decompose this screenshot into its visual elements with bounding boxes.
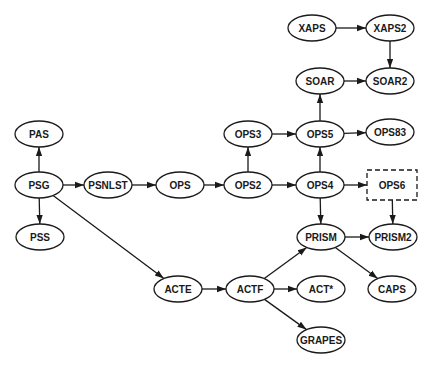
node-actf: ACTF bbox=[226, 276, 274, 302]
node-label: PRISM2 bbox=[374, 232, 412, 243]
node-xaps: XAPS bbox=[288, 15, 336, 41]
node-ops5: OPS5 bbox=[296, 121, 344, 147]
node-label: SOAR bbox=[306, 76, 336, 87]
node-label: OPS2 bbox=[235, 180, 262, 191]
node-label: PSG bbox=[28, 180, 49, 191]
node-label: OPS bbox=[169, 180, 190, 191]
node-label: CAPS bbox=[378, 284, 406, 295]
node-label: PSS bbox=[30, 232, 50, 243]
node-ops: OPS bbox=[156, 172, 204, 198]
node-xaps2: XAPS2 bbox=[366, 15, 414, 41]
node-label: OPS6 bbox=[379, 180, 406, 191]
node-pas: PAS bbox=[15, 121, 63, 147]
node-prism2: PRISM2 bbox=[369, 224, 417, 250]
edge-ops6-to-prism2 bbox=[392, 200, 393, 224]
node-soar2: SOAR2 bbox=[366, 68, 414, 94]
node-ops2: OPS2 bbox=[224, 172, 272, 198]
edge-ops4-to-prism bbox=[320, 198, 321, 224]
node-label: PAS bbox=[29, 129, 49, 140]
node-ops83: OPS83 bbox=[366, 119, 414, 145]
node-pss: PSS bbox=[16, 224, 64, 250]
node-soar: SOAR bbox=[296, 68, 344, 94]
node-grapes: GRAPES bbox=[297, 327, 345, 353]
node-label: OPS5 bbox=[307, 129, 334, 140]
node-ops6: OPS6 bbox=[367, 170, 417, 200]
nodes: XAPSXAPS2SOARSOAR2PASOPS3OPS5OPS83PSGPSN… bbox=[15, 15, 417, 353]
production-system-family-diagram: XAPSXAPS2SOARSOAR2PASOPS3OPS5OPS83PSGPSN… bbox=[0, 0, 431, 371]
node-label: ACT* bbox=[309, 284, 334, 295]
node-label: OPS4 bbox=[307, 180, 334, 191]
node-caps: CAPS bbox=[368, 276, 416, 302]
node-label: XAPS bbox=[298, 23, 326, 34]
node-label: OPS83 bbox=[374, 127, 407, 138]
edge-actf-to-grapes bbox=[265, 299, 307, 329]
edge-psg-to-acte bbox=[53, 196, 164, 279]
diagram-canvas: XAPSXAPS2SOARSOAR2PASOPS3OPS5OPS83PSGPSN… bbox=[0, 0, 431, 371]
node-psg: PSG bbox=[15, 172, 63, 198]
edge-psg-to-pss bbox=[39, 198, 40, 224]
edge-actf-to-prism bbox=[264, 248, 306, 279]
node-prism: PRISM bbox=[297, 224, 345, 250]
node-label: ACTF bbox=[237, 284, 264, 295]
edge-ops5-to-ops83 bbox=[344, 133, 366, 134]
node-acte: ACTE bbox=[154, 276, 202, 302]
node-ops3: OPS3 bbox=[224, 121, 272, 147]
node-label: SOAR2 bbox=[373, 76, 408, 87]
node-label: PSNLST bbox=[88, 180, 127, 191]
node-label: OPS3 bbox=[235, 129, 262, 140]
node-label: ACTE bbox=[164, 284, 192, 295]
node-label: GRAPES bbox=[300, 335, 343, 346]
edge-prism-to-caps bbox=[335, 248, 377, 279]
node-psnlst: PSNLST bbox=[84, 172, 132, 198]
node-label: XAPS2 bbox=[374, 23, 407, 34]
node-label: PRISM bbox=[305, 232, 337, 243]
node-actstar: ACT* bbox=[297, 276, 345, 302]
node-ops4: OPS4 bbox=[296, 172, 344, 198]
